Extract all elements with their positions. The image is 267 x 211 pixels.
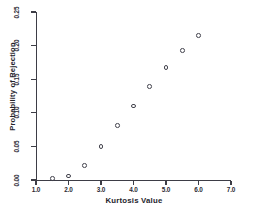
y-tick-label: 0.00 (3, 175, 29, 185)
x-tick-mark (198, 181, 199, 186)
x-axis-title: Kurtosis Value (36, 196, 232, 205)
y-tick-mark (31, 79, 36, 80)
data-point (82, 163, 87, 168)
x-tick-label: 3.0 (89, 186, 113, 193)
data-point (115, 123, 120, 128)
x-tick-mark (68, 181, 69, 186)
data-point (196, 33, 201, 38)
y-axis-line (36, 12, 37, 181)
data-point (50, 176, 55, 181)
data-point (147, 84, 152, 89)
y-tick-mark (31, 11, 36, 12)
data-point (66, 174, 71, 179)
data-point (131, 104, 136, 109)
x-tick-label: 1.0 (24, 186, 48, 193)
y-tick-mark (31, 45, 36, 46)
x-tick-label: 6.0 (187, 186, 211, 193)
x-tick-mark (133, 181, 134, 186)
x-tick-mark (165, 181, 166, 186)
data-point (180, 48, 185, 53)
x-tick-label: 4.0 (122, 186, 146, 193)
x-tick-label: 7.0 (219, 186, 243, 193)
y-tick-label: 0.25 (3, 7, 29, 17)
x-tick-label: 2.0 (57, 186, 81, 193)
y-tick-mark (31, 112, 36, 113)
y-axis-title: Probability of Rejection (8, 22, 17, 152)
data-point (164, 65, 169, 70)
scatter-chart: 0.000.050.100.150.200.25 1.02.03.04.05.0… (0, 0, 267, 211)
x-tick-label: 5.0 (154, 186, 178, 193)
x-tick-mark (100, 181, 101, 186)
x-tick-mark (35, 181, 36, 186)
y-tick-mark (31, 146, 36, 147)
data-point (99, 144, 104, 149)
x-tick-mark (230, 181, 231, 186)
